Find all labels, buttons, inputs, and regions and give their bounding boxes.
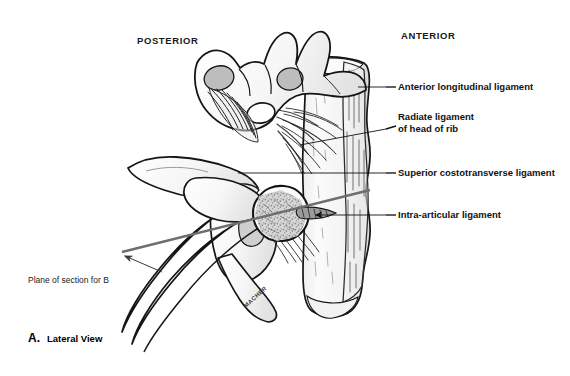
label-radiate-ligament-line1: Radiate ligament bbox=[398, 111, 475, 122]
caption-label: Lateral View bbox=[47, 333, 103, 344]
label-superior-costotransverse-ligament: Superior costotransverse ligament bbox=[398, 167, 556, 178]
caption-letter: A. bbox=[28, 331, 40, 345]
anterior-header: ANTERIOR bbox=[401, 30, 455, 41]
label-anterior-longitudinal-ligament: Anterior longitudinal ligament bbox=[398, 81, 534, 92]
label-intra-articular-ligament: Intra-articular ligament bbox=[398, 209, 502, 220]
figure-page: MACHER Plane of section for B POSTERIOR … bbox=[0, 0, 570, 376]
label-radiate-ligament-line2: of head of rib bbox=[398, 123, 458, 134]
anatomical-illustration: MACHER Plane of section for B POSTERIOR … bbox=[0, 0, 570, 376]
posterior-header: POSTERIOR bbox=[137, 35, 198, 46]
anterior-longitudinal-ligament bbox=[343, 62, 368, 302]
plane-of-section-label: Plane of section for B bbox=[28, 275, 109, 285]
